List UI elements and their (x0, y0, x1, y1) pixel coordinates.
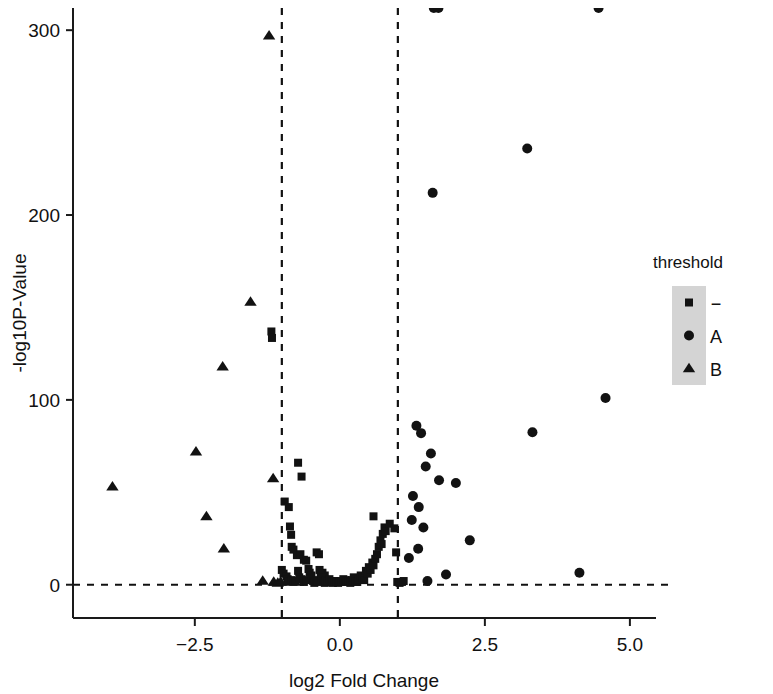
data-point-circle (408, 491, 418, 501)
y-tick-label: 0 (49, 575, 60, 596)
legend-entry-label: − (711, 294, 722, 314)
data-point-square (294, 459, 302, 467)
data-point-square (378, 540, 386, 548)
y-tick-label: 100 (28, 390, 60, 411)
data-point-square (373, 550, 381, 558)
legend-entry-label: A (710, 327, 722, 347)
data-point-circle (428, 188, 438, 198)
legend-entry-label: B (710, 360, 722, 380)
y-axis-title: -log10P-Value (9, 253, 30, 372)
data-point-circle (418, 522, 428, 532)
data-point-circle (451, 478, 461, 488)
data-point-circle (413, 544, 423, 554)
data-point-circle (574, 568, 584, 578)
x-tick-label: 2.5 (472, 634, 498, 655)
legend-marker-square (685, 299, 693, 307)
data-point-circle (421, 461, 431, 471)
data-point-square (302, 557, 310, 565)
y-tick-label: 200 (28, 205, 60, 226)
x-tick-label: −2.5 (176, 634, 214, 655)
data-point-circle (422, 576, 432, 586)
data-point-square (315, 550, 323, 558)
y-tick-label: 300 (28, 20, 60, 41)
data-point-square (285, 503, 293, 511)
data-point-circle (465, 535, 475, 545)
data-point-square (287, 531, 295, 539)
data-point-square (286, 523, 294, 531)
legend-marker-circle (684, 331, 694, 341)
x-tick-label: 0.0 (327, 634, 353, 655)
legend-entries: −AB (672, 286, 722, 385)
data-point-circle (522, 143, 532, 153)
data-point-square (369, 512, 377, 520)
figure-background (0, 0, 773, 694)
volcano-plot-figure: 0100200300 -log10P-Value −2.50.02.55.0 l… (0, 0, 773, 694)
data-point-square (268, 334, 276, 342)
data-point-circle (441, 570, 451, 580)
data-point-square (382, 527, 390, 535)
data-point-square (392, 548, 400, 556)
data-point-square (298, 473, 306, 481)
data-point-square (400, 577, 408, 585)
data-point-square (390, 524, 398, 532)
data-point-circle (426, 448, 436, 458)
data-point-circle (527, 427, 537, 437)
data-point-circle (404, 553, 414, 563)
legend-title: threshold (653, 253, 723, 272)
data-point-circle (414, 502, 424, 512)
data-point-circle (601, 393, 611, 403)
data-point-circle (434, 475, 444, 485)
data-point-circle (416, 428, 426, 438)
x-tick-label: 5.0 (617, 634, 643, 655)
data-point-circle (407, 515, 417, 525)
x-axis-title: log2 Fold Change (289, 670, 439, 691)
